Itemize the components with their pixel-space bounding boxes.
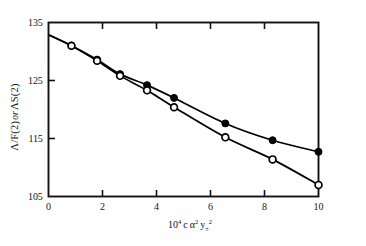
- y-tick-label: 125: [13, 75, 43, 86]
- data-markers: [68, 42, 322, 188]
- curve-open-circles: [49, 35, 319, 185]
- data-point-open: [144, 87, 151, 94]
- x-tick-label: 2: [93, 201, 113, 212]
- data-point-open: [171, 104, 178, 111]
- data-point-open: [269, 156, 276, 163]
- data-point-filled: [171, 94, 178, 101]
- x-tick-label: 4: [147, 201, 167, 212]
- data-point-open: [94, 57, 101, 64]
- plot-frame: [49, 23, 319, 197]
- x-tick-label: 10: [309, 201, 329, 212]
- data-point-open: [117, 72, 124, 79]
- y-tick-label: 135: [13, 17, 43, 28]
- data-point-open: [222, 134, 229, 141]
- data-point-open: [315, 182, 322, 189]
- x-tick-label: 0: [39, 201, 59, 212]
- data-point-filled: [315, 148, 322, 155]
- axis-ticks: [49, 23, 265, 197]
- y-tick-label: 115: [13, 133, 43, 144]
- data-point-open: [68, 42, 75, 49]
- data-point-filled: [269, 137, 276, 144]
- figure-container: Λ/F(2)orΛS(2) 104 c α2 y±2 105115125135 …: [0, 0, 366, 246]
- x-tick-label: 6: [201, 201, 221, 212]
- curve-filled-circles: [49, 35, 319, 152]
- data-curves: [49, 35, 319, 185]
- data-point-filled: [222, 120, 229, 127]
- x-tick-label: 8: [255, 201, 275, 212]
